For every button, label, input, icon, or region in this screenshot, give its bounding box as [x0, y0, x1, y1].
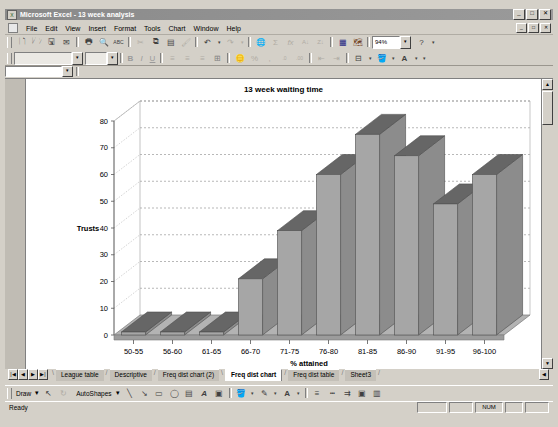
arrow-style-icon[interactable]: ⇉ — [340, 386, 355, 400]
font-size-dropdown-icon[interactable]: ▾ — [107, 52, 118, 65]
underline-button[interactable]: U — [147, 54, 158, 63]
align-center-icon[interactable]: ≡ — [180, 51, 195, 65]
sheet-tab-freq-dist-chart-2[interactable]: Freq dist chart (2) — [158, 369, 219, 381]
open-icon[interactable]: 🗁 — [29, 35, 44, 49]
name-box[interactable] — [5, 66, 62, 77]
menu-item-help[interactable]: Help — [222, 25, 244, 32]
fill-color-icon[interactable]: 🪣 — [374, 51, 389, 65]
new-icon[interactable]: 🗋 — [14, 35, 29, 49]
sheet-tab-league-table[interactable]: League table — [56, 369, 104, 381]
merge-center-icon[interactable]: ⊞ — [210, 51, 225, 65]
font-color-icon[interactable]: A — [397, 51, 412, 65]
fill-color-icon[interactable]: 🪣 — [234, 386, 249, 400]
wordart-icon[interactable]: A — [197, 386, 212, 400]
increase-indent-icon[interactable]: ⇥ — [329, 51, 344, 65]
toolbar-overflow-icon[interactable]: ▾ — [420, 51, 429, 65]
shadow-icon[interactable]: ▣ — [355, 386, 370, 400]
line-style-icon[interactable]: ≡ — [310, 386, 325, 400]
paste-function-icon[interactable]: fx — [283, 35, 298, 49]
text-box-icon[interactable]: ▤ — [182, 386, 197, 400]
arrow-icon[interactable]: ↘ — [137, 386, 152, 400]
undo-icon[interactable]: ↶ — [200, 35, 215, 49]
menu-item-chart[interactable]: Chart — [164, 25, 189, 32]
print-icon[interactable]: 🖶 — [81, 35, 96, 49]
doc-close-button[interactable]: ✕ — [540, 23, 551, 33]
align-right-icon[interactable]: ≡ — [195, 51, 210, 65]
comma-icon[interactable]: , — [262, 51, 277, 65]
tab-scroll-left-button[interactable]: ◀ — [539, 369, 549, 380]
menu-item-view[interactable]: View — [61, 25, 84, 32]
nav-prev-sheet-button[interactable]: ◀ — [18, 369, 28, 380]
spelling-icon[interactable]: ABC — [111, 35, 126, 49]
nav-next-sheet-button[interactable]: ▶ — [28, 369, 38, 380]
decrease-decimal-icon[interactable]: .00 — [292, 51, 307, 65]
menu-item-format[interactable]: Format — [110, 25, 140, 32]
fill-color-dropdown-icon[interactable]: ▾ — [389, 51, 397, 65]
line-icon[interactable]: ╲ — [122, 386, 137, 400]
sort-descending-icon[interactable]: Z↓ — [313, 35, 328, 49]
bar-chart[interactable]: 01020304050607080Trusts50-5556-6061-6566… — [26, 79, 541, 369]
nav-last-sheet-button[interactable]: ▶| — [38, 369, 48, 380]
doc-restore-button[interactable]: □ — [528, 23, 539, 33]
vertical-scrollbar[interactable]: ▲ ▼ — [541, 79, 553, 369]
autoshapes-menu-button[interactable]: AutoShapes — [74, 390, 113, 397]
toolbar-grip[interactable] — [7, 37, 12, 48]
line-color-icon[interactable]: ✎ — [257, 386, 272, 400]
borders-icon[interactable]: ⊟ — [351, 51, 366, 65]
autosum-icon[interactable]: Σ — [268, 35, 283, 49]
chart-sheet[interactable]: 13 week waiting time 01020304050607080Tr… — [26, 79, 541, 369]
autoshapes-dropdown-icon[interactable]: ▾ — [114, 389, 122, 397]
rectangle-icon[interactable]: ▭ — [152, 386, 167, 400]
menu-item-edit[interactable]: Edit — [41, 25, 61, 32]
doc-minimize-button[interactable]: _ — [516, 23, 527, 33]
menu-item-tools[interactable]: Tools — [140, 25, 164, 32]
format-painter-icon[interactable]: 🖌 — [178, 35, 193, 49]
copy-icon[interactable]: ⧉ — [148, 35, 163, 49]
mail-icon[interactable]: ✉ — [59, 35, 74, 49]
formula-input[interactable] — [82, 67, 553, 76]
font-color-dropdown-icon[interactable]: ▾ — [412, 51, 420, 65]
scroll-down-button[interactable]: ▼ — [542, 358, 553, 369]
sheet-tab-freq-dist-table[interactable]: Freq dist table — [288, 369, 339, 381]
dash-style-icon[interactable]: ┅ — [325, 386, 340, 400]
toolbar-overflow-icon[interactable]: ▾ — [429, 35, 438, 49]
percent-icon[interactable]: % — [247, 51, 262, 65]
hyperlink-icon[interactable]: 🌐 — [253, 35, 268, 49]
draw-menu-button[interactable]: Draw — [14, 390, 33, 397]
align-left-icon[interactable]: ≡ — [165, 51, 180, 65]
close-button[interactable]: ✕ — [539, 9, 551, 20]
scroll-thumb[interactable] — [542, 91, 553, 125]
redo-dropdown-icon[interactable]: ▾ — [238, 35, 246, 49]
increase-decimal-icon[interactable]: .0 — [277, 51, 292, 65]
sheet-tab-sheet3[interactable]: Sheet3 — [345, 369, 376, 381]
3d-icon[interactable]: ▥ — [370, 386, 385, 400]
scroll-up-button[interactable]: ▲ — [542, 79, 553, 90]
toolbar-grip[interactable] — [7, 53, 12, 64]
help-icon[interactable]: ? — [414, 35, 429, 49]
minimize-button[interactable]: _ — [513, 9, 525, 20]
currency-icon[interactable]: 🪙 — [232, 51, 247, 65]
cut-icon[interactable]: ✂ — [133, 35, 148, 49]
borders-dropdown-icon[interactable]: ▾ — [366, 51, 374, 65]
font-name-input[interactable] — [14, 52, 72, 65]
font-name-dropdown-icon[interactable]: ▾ — [72, 52, 83, 65]
fill-color-dropdown-icon[interactable]: ▾ — [249, 386, 257, 400]
free-rotate-icon[interactable]: ↻ — [56, 386, 71, 400]
map-icon[interactable]: 🗺 — [350, 35, 365, 49]
menu-item-insert[interactable]: Insert — [84, 25, 110, 32]
print-preview-icon[interactable]: 🔍 — [96, 35, 111, 49]
sheet-tab-descriptive[interactable]: Descriptive — [110, 369, 152, 381]
menu-item-window[interactable]: Window — [190, 25, 223, 32]
chart-wizard-icon[interactable]: ▦ — [335, 35, 350, 49]
menu-item-file[interactable]: File — [22, 25, 41, 32]
redo-icon[interactable]: ↷ — [223, 35, 238, 49]
zoom-dropdown-icon[interactable]: ▾ — [400, 36, 411, 49]
decrease-indent-icon[interactable]: ⇤ — [314, 51, 329, 65]
zoom-input[interactable]: 94% — [372, 36, 400, 49]
sheet-tab-freq-dist-chart[interactable]: Freq dist chart — [225, 369, 282, 381]
draw-dropdown-icon[interactable]: ▾ — [33, 389, 41, 397]
save-icon[interactable]: 🖫 — [44, 35, 59, 49]
sort-ascending-icon[interactable]: A↓ — [298, 35, 313, 49]
paste-icon[interactable]: ▤ — [163, 35, 178, 49]
clip-art-icon[interactable]: ▣ — [212, 386, 227, 400]
